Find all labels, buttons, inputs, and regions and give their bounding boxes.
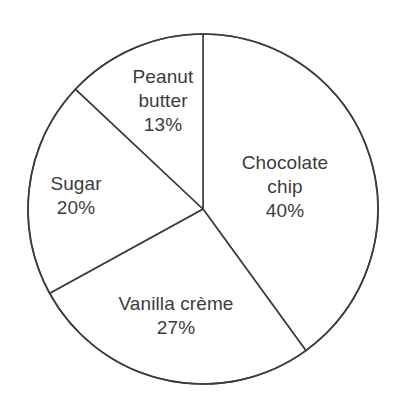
- slice-label-chocolate-chip-value: 40%: [242, 199, 328, 223]
- slice-label-peanut-butter-line1: Peanut: [133, 65, 194, 89]
- slice-label-peanut-butter-line2: butter: [133, 89, 194, 113]
- pie-chart-figure: Chocolate chip 40% Vanilla crème 27% Sug…: [0, 0, 401, 412]
- slice-label-chocolate-chip-line2: chip: [242, 175, 328, 199]
- slice-label-vanilla-creme-line1: Vanilla crème: [119, 292, 234, 316]
- slice-label-sugar: Sugar 20%: [50, 172, 101, 220]
- slice-label-vanilla-creme: Vanilla crème 27%: [119, 292, 234, 340]
- slice-label-chocolate-chip: Chocolate chip 40%: [242, 151, 328, 223]
- slice-label-chocolate-chip-line1: Chocolate: [242, 151, 328, 175]
- slice-label-sugar-value: 20%: [50, 196, 101, 220]
- slice-label-peanut-butter-value: 13%: [133, 113, 194, 137]
- slice-label-peanut-butter: Peanut butter 13%: [133, 65, 194, 137]
- slice-label-sugar-line1: Sugar: [50, 172, 101, 196]
- slice-label-vanilla-creme-value: 27%: [119, 316, 234, 340]
